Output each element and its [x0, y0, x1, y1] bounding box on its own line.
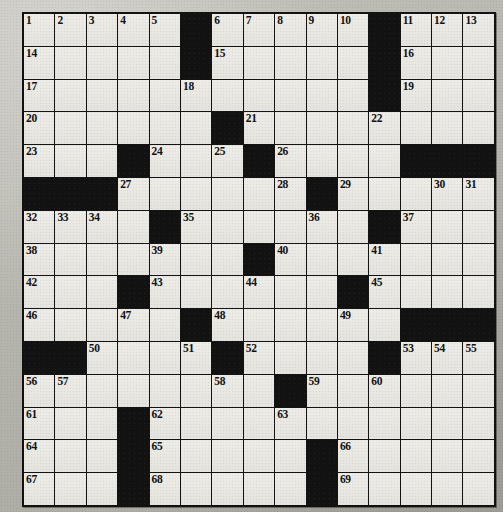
crossword-letter-cell[interactable] — [337, 145, 368, 178]
crossword-letter-cell[interactable] — [275, 276, 306, 309]
crossword-letter-cell[interactable] — [369, 473, 400, 506]
crossword-letter-cell[interactable]: 5 — [149, 13, 180, 46]
crossword-letter-cell[interactable] — [55, 407, 86, 440]
crossword-letter-cell[interactable] — [212, 243, 243, 276]
crossword-letter-cell[interactable]: 61 — [23, 407, 55, 440]
crossword-letter-cell[interactable]: 42 — [23, 276, 55, 309]
crossword-letter-cell[interactable] — [86, 276, 117, 309]
crossword-letter-cell[interactable] — [212, 276, 243, 309]
crossword-letter-cell[interactable] — [180, 473, 211, 506]
crossword-letter-cell[interactable] — [86, 79, 117, 112]
crossword-letter-cell[interactable] — [86, 145, 117, 178]
crossword-letter-cell[interactable] — [432, 79, 463, 112]
crossword-letter-cell[interactable]: 43 — [149, 276, 180, 309]
crossword-letter-cell[interactable]: 24 — [149, 145, 180, 178]
crossword-letter-cell[interactable]: 63 — [275, 407, 306, 440]
crossword-letter-cell[interactable]: 57 — [55, 374, 86, 407]
crossword-letter-cell[interactable] — [463, 243, 495, 276]
crossword-letter-cell[interactable]: 66 — [337, 440, 368, 473]
crossword-letter-cell[interactable]: 19 — [400, 79, 431, 112]
crossword-letter-cell[interactable] — [149, 341, 180, 374]
crossword-letter-cell[interactable]: 2 — [55, 13, 86, 46]
crossword-letter-cell[interactable]: 10 — [337, 13, 368, 46]
crossword-letter-cell[interactable] — [400, 112, 431, 145]
crossword-letter-cell[interactable] — [118, 374, 149, 407]
crossword-letter-cell[interactable]: 18 — [180, 79, 211, 112]
crossword-letter-cell[interactable]: 62 — [149, 407, 180, 440]
crossword-letter-cell[interactable] — [149, 79, 180, 112]
crossword-letter-cell[interactable] — [306, 407, 337, 440]
crossword-letter-cell[interactable] — [306, 276, 337, 309]
crossword-letter-cell[interactable]: 30 — [432, 177, 463, 210]
crossword-letter-cell[interactable]: 60 — [369, 374, 400, 407]
crossword-letter-cell[interactable]: 28 — [275, 177, 306, 210]
crossword-letter-cell[interactable]: 37 — [400, 210, 431, 243]
crossword-letter-cell[interactable] — [180, 177, 211, 210]
crossword-letter-cell[interactable]: 50 — [86, 341, 117, 374]
crossword-letter-cell[interactable] — [369, 309, 400, 342]
crossword-letter-cell[interactable]: 26 — [275, 145, 306, 178]
crossword-letter-cell[interactable] — [243, 210, 274, 243]
crossword-letter-cell[interactable] — [337, 407, 368, 440]
crossword-letter-cell[interactable] — [432, 210, 463, 243]
crossword-letter-cell[interactable] — [400, 374, 431, 407]
crossword-letter-cell[interactable] — [212, 473, 243, 506]
crossword-grid-container[interactable]: 1234567891011121314151617181920212223242… — [22, 12, 478, 490]
crossword-letter-cell[interactable] — [432, 46, 463, 79]
crossword-letter-cell[interactable] — [212, 210, 243, 243]
crossword-letter-cell[interactable] — [118, 46, 149, 79]
crossword-letter-cell[interactable] — [306, 46, 337, 79]
crossword-letter-cell[interactable]: 69 — [337, 473, 368, 506]
crossword-letter-cell[interactable] — [243, 374, 274, 407]
crossword-letter-cell[interactable]: 8 — [275, 13, 306, 46]
crossword-letter-cell[interactable]: 12 — [432, 13, 463, 46]
crossword-letter-cell[interactable]: 34 — [86, 210, 117, 243]
crossword-letter-cell[interactable]: 17 — [23, 79, 55, 112]
crossword-letter-cell[interactable] — [337, 79, 368, 112]
crossword-letter-cell[interactable]: 46 — [23, 309, 55, 342]
crossword-letter-cell[interactable] — [55, 440, 86, 473]
crossword-letter-cell[interactable] — [369, 177, 400, 210]
crossword-letter-cell[interactable]: 35 — [180, 210, 211, 243]
crossword-letter-cell[interactable] — [275, 210, 306, 243]
crossword-letter-cell[interactable] — [55, 276, 86, 309]
crossword-letter-cell[interactable]: 49 — [337, 309, 368, 342]
crossword-letter-cell[interactable] — [180, 276, 211, 309]
crossword-letter-cell[interactable] — [180, 407, 211, 440]
crossword-letter-cell[interactable] — [86, 473, 117, 506]
crossword-letter-cell[interactable] — [118, 341, 149, 374]
crossword-letter-cell[interactable]: 52 — [243, 341, 274, 374]
crossword-letter-cell[interactable]: 29 — [337, 177, 368, 210]
crossword-letter-cell[interactable]: 40 — [275, 243, 306, 276]
crossword-letter-cell[interactable] — [86, 112, 117, 145]
crossword-letter-cell[interactable] — [243, 79, 274, 112]
crossword-letter-cell[interactable] — [180, 112, 211, 145]
crossword-letter-cell[interactable] — [369, 407, 400, 440]
crossword-letter-cell[interactable] — [306, 145, 337, 178]
crossword-letter-cell[interactable] — [400, 243, 431, 276]
crossword-letter-cell[interactable] — [55, 243, 86, 276]
crossword-letter-cell[interactable]: 32 — [23, 210, 55, 243]
crossword-letter-cell[interactable] — [149, 46, 180, 79]
crossword-letter-cell[interactable] — [463, 46, 495, 79]
crossword-letter-cell[interactable] — [400, 473, 431, 506]
crossword-letter-cell[interactable] — [243, 440, 274, 473]
crossword-letter-cell[interactable] — [55, 112, 86, 145]
crossword-letter-cell[interactable] — [463, 374, 495, 407]
crossword-letter-cell[interactable] — [306, 341, 337, 374]
crossword-letter-cell[interactable]: 68 — [149, 473, 180, 506]
crossword-letter-cell[interactable] — [400, 276, 431, 309]
crossword-letter-cell[interactable] — [400, 177, 431, 210]
crossword-letter-cell[interactable] — [243, 407, 274, 440]
crossword-letter-cell[interactable] — [149, 177, 180, 210]
crossword-letter-cell[interactable] — [86, 440, 117, 473]
crossword-letter-cell[interactable] — [55, 473, 86, 506]
crossword-letter-cell[interactable]: 41 — [369, 243, 400, 276]
crossword-letter-cell[interactable]: 21 — [243, 112, 274, 145]
crossword-letter-cell[interactable]: 20 — [23, 112, 55, 145]
crossword-letter-cell[interactable]: 44 — [243, 276, 274, 309]
crossword-letter-cell[interactable]: 36 — [306, 210, 337, 243]
crossword-letter-cell[interactable]: 7 — [243, 13, 274, 46]
crossword-letter-cell[interactable] — [243, 473, 274, 506]
crossword-letter-cell[interactable]: 58 — [212, 374, 243, 407]
